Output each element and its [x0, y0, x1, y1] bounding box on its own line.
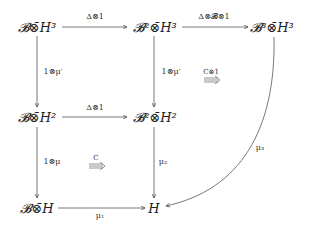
label-1-mu-prime-left: 1⊗μ′ [44, 68, 63, 76]
label-mu3: μ₃ [256, 144, 264, 152]
node-B3-H3: 𝓑³⊗̄H³ [250, 21, 294, 34]
label-delta-B-tensor-1: Δ⊗𝓑⊗1 [198, 13, 229, 21]
node-B2-H2: 𝓑²⊗̄H² [133, 111, 177, 124]
label-1-mu: 1⊗μ [44, 158, 61, 166]
two-cell-C-tensor-1: C⊗1 [203, 69, 219, 76]
two-cell-C: C [93, 155, 98, 162]
node-H: H [148, 202, 159, 215]
node-B-H2: 𝓑⊗̄H² [18, 111, 56, 124]
label-delta-tensor-1-mid: Δ⊗1 [86, 104, 104, 112]
label-mu2: μ₂ [159, 158, 167, 166]
node-B-H: 𝓑⊗̄H [20, 202, 53, 215]
label-1-mu-prime-mid: 1⊗μ′ [162, 68, 181, 76]
node-B-H3: 𝓑⊗̄H³ [18, 21, 56, 34]
arrow-B3H3-H [166, 37, 274, 206]
label-delta-tensor-1-top: Δ⊗1 [86, 13, 104, 21]
node-B2-H3: 𝓑²⊗̄H³ [133, 21, 177, 34]
label-mu1: μ₁ [96, 212, 104, 220]
